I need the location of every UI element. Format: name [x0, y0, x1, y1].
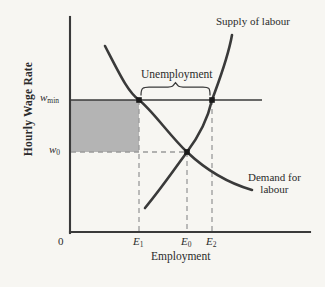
y-tick-sub-wmin: min — [47, 96, 59, 105]
unemployment-annotation: Unemployment — [141, 68, 213, 80]
wage-bill-shaded-rectangle — [70, 100, 139, 152]
x-tick-label-E0: E0 — [181, 236, 191, 248]
x-tick-sub-E2: 2 — [213, 240, 217, 249]
x-tick-label-E1: E1 — [133, 236, 143, 248]
y-axis-title: Hourly Wage Rate — [22, 62, 34, 156]
x-tick-var-E0: E — [181, 235, 188, 247]
labour-market-minimum-wage-diagram: Hourly Wage Rate 0 wmin w0 E1 E0 E2 Empl… — [0, 0, 325, 287]
marker-E2-wmin — [209, 97, 215, 103]
x-tick-sub-E1: 1 — [140, 240, 144, 249]
x-tick-sub-E0: 0 — [188, 240, 192, 249]
unemployment-brace — [141, 83, 210, 96]
x-axis-title: Employment — [151, 250, 210, 262]
demand-curve-label: Demand for labour — [248, 172, 301, 195]
demand-curve-label-line1: Demand for — [248, 172, 301, 184]
y-tick-label-wmin: wmin — [40, 92, 59, 104]
marker-E0-w0 — [184, 149, 190, 155]
supply-curve-label: Supply of labour — [216, 16, 290, 28]
y-tick-label-w0: w0 — [49, 144, 60, 156]
demand-curve-label-line2: labour — [248, 184, 301, 196]
x-tick-var-E1: E — [133, 235, 140, 247]
marker-E1-wmin — [136, 97, 142, 103]
y-axis-title-wrap: Hourly Wage Rate — [18, 49, 36, 169]
y-tick-sub-w0: 0 — [56, 148, 60, 157]
origin-label: 0 — [58, 236, 64, 248]
x-tick-var-E2: E — [206, 235, 213, 247]
x-tick-label-E2: E2 — [206, 236, 216, 248]
